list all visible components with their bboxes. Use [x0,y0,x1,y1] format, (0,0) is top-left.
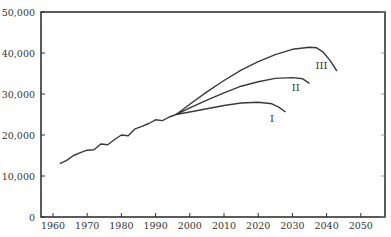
y-tick-label: 10,000 [2,171,35,182]
x-tick-label: 2030 [280,220,304,231]
series-line-scenario-iii [176,47,337,114]
y-tick-label: 40,000 [2,48,35,59]
y-axis: 010,00020,00030,00040,00050,000 [2,7,385,223]
y-tick-label: 30,000 [2,89,35,100]
y-tick-label: 20,000 [2,130,35,141]
curve-labels: IIIIII [270,60,328,124]
x-tick-label: 1970 [75,220,99,231]
curve-label-iii: III [316,60,328,71]
x-tick-label: 2050 [349,220,373,231]
x-tick-label: 1980 [109,220,133,231]
x-tick-label: 1990 [144,220,168,231]
x-axis: 1960197019801990200020102020203020402050 [41,213,373,231]
x-tick-label: 2000 [178,220,202,231]
x-tick-label: 1960 [41,220,65,231]
plot-frame [41,12,385,217]
x-tick-label: 2040 [315,220,339,231]
series-line-scenario-ii [176,78,309,115]
series-line-historical [60,115,176,164]
line-chart: 010,00020,00030,00040,00050,000 19601970… [0,0,391,237]
series-lines [60,47,337,163]
y-tick-label: 0 [29,212,35,223]
plot-border [41,12,385,217]
x-tick-label: 2010 [212,220,236,231]
y-tick-label: 50,000 [2,7,35,18]
x-tick-label: 2020 [246,220,270,231]
curve-label-ii: II [292,82,300,93]
curve-label-i: I [270,113,274,124]
